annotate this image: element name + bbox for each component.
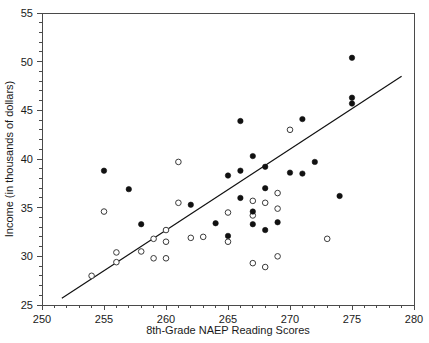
x-tick-label: 255: [95, 313, 113, 325]
y-tick-label: 35: [21, 202, 33, 214]
data-point-filled: [275, 220, 280, 225]
plot-frame: [42, 13, 414, 305]
y-tick-label: 25: [21, 299, 33, 311]
data-point-open: [163, 255, 169, 261]
y-tick-label: 55: [21, 7, 33, 19]
y-axis-tick-labels: 25303540455055: [21, 7, 33, 311]
y-axis-title: Income (in thousands of dollars): [3, 81, 15, 238]
data-point-open: [275, 190, 281, 196]
x-axis-ticks: [42, 305, 414, 310]
data-point-filled: [250, 153, 255, 158]
data-point-open: [114, 259, 120, 265]
data-point-open: [151, 255, 157, 261]
data-point-open: [287, 127, 293, 133]
data-point-filled: [225, 173, 230, 178]
data-point-filled: [300, 171, 305, 176]
data-point-filled: [225, 233, 230, 238]
y-tick-label: 30: [21, 250, 33, 262]
data-point-open: [151, 236, 157, 242]
data-point-open: [275, 206, 281, 212]
data-point-filled: [349, 101, 354, 106]
x-tick-label: 250: [33, 313, 51, 325]
x-axis-title: 8th-Grade NAEP Reading Scores: [146, 324, 310, 336]
data-point-filled: [349, 95, 354, 100]
data-point-open: [163, 227, 169, 233]
data-point-filled: [312, 159, 317, 164]
y-axis-ticks: [37, 13, 42, 305]
data-point-open: [176, 159, 182, 165]
data-point-open: [225, 210, 231, 216]
data-point-filled: [238, 118, 243, 123]
data-point-open: [89, 273, 95, 279]
data-point-filled: [101, 168, 106, 173]
x-tick-label: 280: [405, 313, 423, 325]
open-circle-data-points: [89, 127, 330, 279]
data-point-filled: [300, 116, 305, 121]
scatter-plot-figure: 250255260265270275280 25303540455055 8th…: [0, 0, 429, 343]
data-point-filled: [250, 222, 255, 227]
data-point-open: [176, 200, 182, 206]
data-point-open: [225, 239, 231, 245]
data-point-filled: [188, 202, 193, 207]
data-point-open: [250, 198, 256, 204]
y-tick-label: 50: [21, 56, 33, 68]
data-point-filled: [263, 164, 268, 169]
data-point-filled: [263, 186, 268, 191]
data-point-filled: [213, 221, 218, 226]
data-point-open: [324, 236, 330, 242]
y-tick-label: 40: [21, 153, 33, 165]
data-point-open: [188, 235, 194, 241]
data-point-open: [262, 200, 268, 206]
data-point-open: [101, 209, 107, 215]
y-tick-label: 45: [21, 104, 33, 116]
data-point-filled: [349, 55, 354, 60]
data-point-filled: [287, 170, 292, 175]
regression-line: [62, 76, 402, 298]
data-point-open: [275, 254, 281, 260]
data-point-filled: [337, 193, 342, 198]
data-point-filled: [263, 227, 268, 232]
regression-line-segment: [62, 76, 402, 298]
data-point-open: [200, 234, 206, 240]
data-point-filled: [250, 209, 255, 214]
x-tick-label: 275: [343, 313, 361, 325]
plot-canvas: 250255260265270275280 25303540455055 8th…: [0, 0, 429, 343]
data-point-open: [114, 250, 120, 256]
plot-border: [42, 13, 414, 305]
data-point-open: [138, 249, 144, 255]
data-point-filled: [238, 195, 243, 200]
data-point-open: [250, 260, 256, 266]
data-point-filled: [238, 168, 243, 173]
data-point-filled: [139, 222, 144, 227]
data-point-filled: [126, 186, 131, 191]
data-point-open: [262, 264, 268, 270]
data-point-open: [163, 239, 169, 245]
